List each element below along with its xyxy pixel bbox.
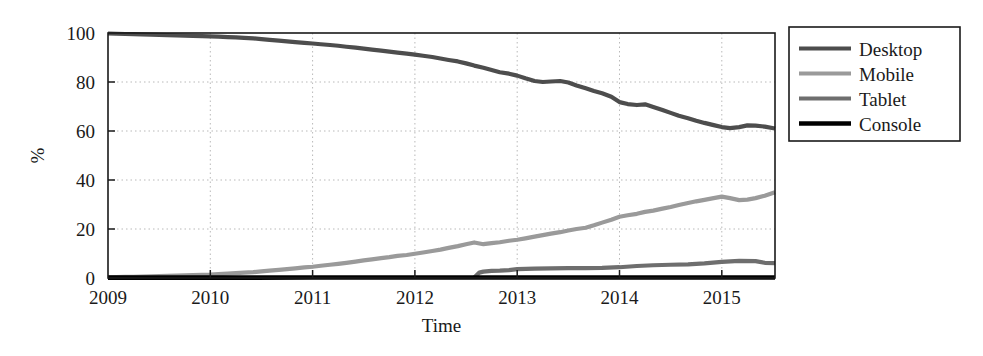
x-tick-label: 2014: [601, 287, 640, 308]
legend-label-tablet: Tablet: [859, 89, 907, 110]
x-tick-label: 2011: [294, 287, 331, 308]
chart-figure: 0204060801002009201020112012201320142015…: [0, 0, 983, 356]
x-tick-label: 2015: [703, 287, 741, 308]
series-line-desktop: [108, 33, 775, 128]
x-tick-label: 2010: [191, 287, 229, 308]
x-tick-label: 2013: [498, 287, 536, 308]
y-tick-label: 60: [76, 121, 95, 142]
series-group: [108, 33, 775, 277]
y-tick-label: 100: [67, 23, 96, 44]
y-tick-label: 80: [76, 72, 95, 93]
y-tick-label: 0: [86, 268, 96, 289]
legend: DesktopMobileTabletConsole: [789, 27, 960, 141]
y-tick-label: 40: [76, 170, 95, 191]
x-tick-label: 2009: [89, 287, 127, 308]
plot-frame: [108, 33, 775, 278]
legend-label-desktop: Desktop: [859, 39, 922, 60]
y-tick-label: 20: [76, 219, 95, 240]
legend-label-console: Console: [859, 114, 921, 135]
y-axis-title: %: [27, 147, 48, 163]
device-share-line-chart: 0204060801002009201020112012201320142015…: [0, 0, 983, 356]
x-axis-title: Time: [422, 315, 461, 336]
gridlines: [108, 33, 775, 278]
legend-label-mobile: Mobile: [859, 64, 914, 85]
x-tick-label: 2012: [396, 287, 434, 308]
series-line-tablet: [474, 261, 775, 278]
